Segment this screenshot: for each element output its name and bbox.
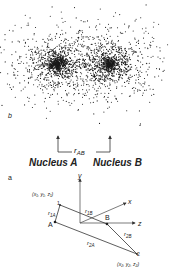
electron-1-label: 1	[57, 200, 60, 206]
nucleus-b-label: Nucleus B	[93, 157, 142, 168]
r1a-line	[55, 205, 60, 222]
panel-b-label: b	[8, 112, 12, 119]
y-axis-label: y	[77, 172, 82, 180]
r2b-label: r2B	[124, 231, 132, 239]
point-b-label: B	[105, 214, 110, 221]
nucleus-a-point	[54, 221, 57, 224]
r1a-label: r1A	[48, 210, 56, 218]
panel-a-label: a	[8, 174, 12, 181]
nucleus-a-label: Nucleus A	[29, 157, 78, 168]
r2a-label: r2A	[87, 240, 95, 248]
distance-vectors	[55, 205, 137, 254]
electron-2-label: 2	[137, 251, 140, 257]
nucleus-b-point	[106, 223, 109, 226]
rab-label: rAB	[74, 146, 85, 156]
electron-2-coords: (x₂, y₂, z₂)	[117, 261, 139, 267]
h2-molecule-figure: b rAB Nucleus A Nucleus B a y x z A B 1 …	[0, 0, 170, 275]
z-axis-label: z	[137, 220, 142, 227]
electron-density-cloud	[0, 4, 168, 126]
r2b-line	[107, 224, 137, 254]
point-a-label: A	[48, 221, 53, 228]
x-axis-label: x	[127, 198, 132, 205]
electron-1-coords: (x₁, y₁, z₁)	[32, 191, 53, 197]
nucleus-distance-indicator: rAB	[58, 136, 110, 156]
r1b-label: r1B	[85, 208, 93, 216]
r2a-line	[55, 222, 137, 254]
